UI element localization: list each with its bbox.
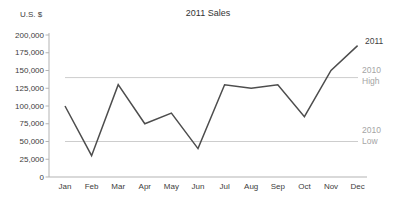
x-tick-label: Apr <box>131 182 159 191</box>
reference-label-2010-low: 2010 Low <box>362 125 392 146</box>
y-tick-label: 150,000 <box>0 66 44 75</box>
x-tick-label: Oct <box>290 182 318 191</box>
x-tick-label: Sep <box>264 182 292 191</box>
y-tick-label: 100,000 <box>0 102 44 111</box>
series-label-2011: 2011 <box>365 36 383 46</box>
x-tick-label: Nov <box>317 182 345 191</box>
reference-label-2010-high: 2010 High <box>362 65 392 86</box>
x-tick-label: Jul <box>211 182 239 191</box>
x-tick-label: Jan <box>51 182 79 191</box>
x-tick-label: Jun <box>184 182 212 191</box>
x-tick-label: May <box>157 182 185 191</box>
y-tick-label: 125,000 <box>0 84 44 93</box>
y-tick-label: 175,000 <box>0 48 44 57</box>
y-tick-label: 200,000 <box>0 31 44 40</box>
plot-area <box>0 0 400 201</box>
x-tick-label: Mar <box>104 182 132 191</box>
y-tick-label: 75,000 <box>0 119 44 128</box>
x-tick-label: Feb <box>78 182 106 191</box>
x-tick-label: Dec <box>344 182 372 191</box>
y-tick-label: 0 <box>0 173 44 182</box>
line-chart: 2011 Sales U.S. $ 025,00050,00075,000100… <box>0 0 400 201</box>
sales-2011-line <box>65 46 358 156</box>
y-tick-label: 50,000 <box>0 137 44 146</box>
x-tick-label: Aug <box>237 182 265 191</box>
y-tick-label: 25,000 <box>0 155 44 164</box>
